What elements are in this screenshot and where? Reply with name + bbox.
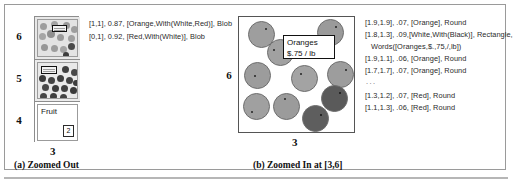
red-circle[interactable] <box>302 105 329 132</box>
grid-cell-row4-inner: Fruit 2 <box>37 104 78 141</box>
blob-dot <box>40 23 47 30</box>
panel-b-caption: (b) Zoomed In at [3,6] <box>253 160 342 170</box>
annotation-a-2: [0,1], 0.92, [Red,With(White)], Blob <box>89 32 205 41</box>
annotation-b-5: [1.7,1.7], .07, [Orange], Round <box>365 66 466 75</box>
price-tag-line2: $.75 / lb <box>287 48 334 59</box>
red-circle[interactable] <box>321 85 348 112</box>
blob-dot <box>39 75 46 82</box>
bottom-rule <box>4 177 508 179</box>
blob-dot <box>66 77 73 84</box>
panel-zoomed-in: 6 Oranges $.75 / lb 3 (b) Zoomed In at [… <box>220 5 507 171</box>
grid-cell-row6-inner <box>37 19 78 57</box>
blob-dot <box>71 26 78 33</box>
grid-cell-row4[interactable]: Fruit 2 <box>35 102 80 143</box>
fruit-count-badge: 2 <box>63 125 74 137</box>
blob-dot <box>51 45 58 52</box>
grid-cell-row5-inner <box>37 62 78 99</box>
orange-circle[interactable] <box>327 61 354 88</box>
blob-dot <box>61 85 68 92</box>
zoomed-out-grid: Fruit 2 <box>34 16 79 142</box>
panel-b-xlabel: 3 <box>292 136 298 148</box>
panel-b-ytick-6: 6 <box>222 69 236 81</box>
orange-circle[interactable] <box>243 93 270 120</box>
grid-cell-row5[interactable] <box>35 60 80 102</box>
panel-a-ytick-4: 4 <box>12 114 26 126</box>
blob-dot <box>68 43 75 50</box>
annotation-b-7: [1.1,1.3], .06, [Red], Round <box>365 103 455 112</box>
annotation-b-6: [1.3,1.2], .07, [Red], Round <box>365 91 455 100</box>
blob-dot <box>39 33 46 40</box>
price-tag-marker <box>52 25 67 32</box>
annotation-a-1: [1,1], 0.87, [Orange,With(White,Red)], B… <box>89 19 232 28</box>
panel-a-ytick-5: 5 <box>12 72 26 84</box>
annotation-b-1: [1.9,1.9], .07, [Orange], Round <box>365 18 466 27</box>
blob-dot <box>41 44 48 51</box>
blob-dot <box>71 69 78 76</box>
blob-dot <box>62 66 69 73</box>
blob-dot <box>48 77 55 84</box>
blob-dot <box>68 35 75 42</box>
annotation-b-ellipsis: ... <box>366 77 377 86</box>
orange-circle[interactable] <box>273 93 300 120</box>
panel-a-ytick-6: 6 <box>12 30 26 42</box>
annotation-b-4: [1.9,1.1], .06, [Orange], Round <box>365 54 466 63</box>
orange-circle[interactable] <box>244 62 271 89</box>
panel-a-xlabel: 3 <box>50 145 56 157</box>
blob-dot <box>60 94 67 99</box>
price-tag-line1: Oranges <box>287 37 334 48</box>
fruit-label: Fruit <box>41 107 57 116</box>
orange-circle[interactable] <box>291 65 318 92</box>
blob-dot <box>50 93 57 99</box>
zoomed-in-grid: Oranges $.75 / lb <box>238 16 355 133</box>
annotation-b-3: Words([Oranges,$.,75,/,lb]) <box>365 42 461 51</box>
blob-dot <box>52 85 59 92</box>
figure-frame: 6 5 4 <box>4 4 506 170</box>
panel-a-caption: (a) Zoomed Out <box>14 160 79 170</box>
annotation-b-2: [1.8,1.3], .09,[White,With(Black)], Rect… <box>365 30 513 39</box>
panel-zoomed-out: 6 5 4 <box>5 5 220 171</box>
blob-dot <box>70 87 77 94</box>
blob-dot <box>57 34 64 41</box>
blob-dot <box>42 84 49 91</box>
price-tag-box[interactable]: Oranges $.75 / lb <box>283 35 335 59</box>
blob-dot <box>73 80 78 86</box>
blob-dot <box>57 75 64 82</box>
price-tag-marker <box>41 66 57 74</box>
blob-dot <box>40 93 47 99</box>
blob-dot <box>63 52 69 57</box>
grid-cell-row6[interactable] <box>35 17 80 60</box>
